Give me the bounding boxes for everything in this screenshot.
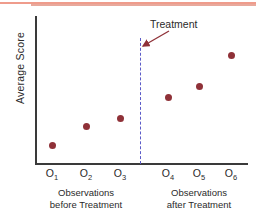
x-tick-base-o4: O bbox=[162, 167, 170, 179]
treatment-arrow-icon bbox=[136, 29, 172, 51]
interrupted-time-series-chart: Average Score Treatment O1 O2 O3 O4 O5 O… bbox=[0, 0, 256, 221]
treatment-intervention-line bbox=[140, 38, 141, 164]
y-axis-line bbox=[35, 16, 37, 164]
data-point-o4 bbox=[165, 94, 172, 101]
group-caption-after: Observations after Treatment bbox=[167, 187, 231, 211]
x-tick-label-o6: O6 bbox=[225, 167, 237, 182]
group-caption-after-line2: after Treatment bbox=[167, 199, 231, 211]
x-tick-label-o1: O1 bbox=[46, 167, 58, 182]
x-tick-sub-o6: 6 bbox=[233, 173, 237, 182]
group-caption-before-line2: before Treatment bbox=[50, 199, 122, 211]
x-tick-sub-o4: 4 bbox=[170, 173, 174, 182]
x-tick-label-o3: O3 bbox=[114, 167, 126, 182]
data-point-o3 bbox=[117, 115, 124, 122]
data-point-o2 bbox=[83, 123, 90, 130]
x-tick-sub-o2: 2 bbox=[88, 173, 92, 182]
x-tick-sub-o5: 5 bbox=[201, 173, 205, 182]
x-tick-label-o4: O4 bbox=[162, 167, 174, 182]
x-tick-base-o3: O bbox=[114, 167, 122, 179]
top-accent-rule-secondary bbox=[31, 4, 256, 6]
x-tick-base-o5: O bbox=[193, 167, 201, 179]
y-axis-title: Average Score bbox=[14, 18, 26, 118]
x-tick-label-o2: O2 bbox=[80, 167, 92, 182]
data-point-o5 bbox=[196, 83, 203, 90]
data-point-o1 bbox=[49, 142, 56, 149]
group-caption-before: Observations before Treatment bbox=[50, 187, 122, 211]
x-tick-sub-o3: 3 bbox=[122, 173, 126, 182]
x-tick-label-o5: O5 bbox=[193, 167, 205, 182]
group-caption-after-line1: Observations bbox=[167, 187, 231, 199]
x-tick-base-o1: O bbox=[46, 167, 54, 179]
group-caption-before-line1: Observations bbox=[50, 187, 122, 199]
x-tick-base-o2: O bbox=[80, 167, 88, 179]
x-axis-line bbox=[35, 163, 248, 165]
x-tick-sub-o1: 1 bbox=[54, 173, 58, 182]
x-tick-base-o6: O bbox=[225, 167, 233, 179]
data-point-o6 bbox=[228, 52, 235, 59]
